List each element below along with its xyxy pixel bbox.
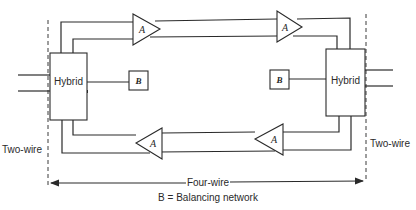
left-two-wire-label: Two-wire — [2, 144, 42, 155]
amplifier-bottom-right: A — [255, 124, 283, 155]
right-hybrid-label: Hybrid — [331, 75, 360, 86]
svg-text:A: A — [149, 138, 157, 149]
bottom-receive-path — [62, 116, 351, 153]
left-hybrid: Hybrid — [50, 53, 87, 120]
left-balancing-label: B — [134, 76, 141, 86]
right-two-wire-label: Two-wire — [370, 138, 410, 149]
svg-text:A: A — [281, 22, 289, 33]
amplifier-top-left: A — [133, 14, 160, 45]
right-hybrid: Hybrid — [326, 49, 365, 116]
top-transmit-path — [61, 18, 350, 53]
left-balancing-network: B — [129, 71, 148, 90]
svg-text:A: A — [270, 134, 278, 145]
legend-text: B = Balancing network — [158, 192, 259, 203]
four-wire-label: Four-wire — [187, 177, 230, 188]
right-balancing-network: B — [270, 70, 289, 89]
four-wire-circuit-diagram: Hybrid Hybrid B B A A A A Two-wire Two-w… — [0, 0, 416, 210]
right-balancing-label: B — [275, 75, 282, 85]
left-two-wire-leads — [18, 75, 50, 91]
left-hybrid-label: Hybrid — [54, 76, 83, 87]
amplifier-bottom-left: A — [136, 128, 162, 159]
right-two-wire-leads — [365, 70, 393, 86]
svg-text:A: A — [138, 24, 146, 35]
amplifier-top-right-positioned: A — [277, 11, 302, 42]
